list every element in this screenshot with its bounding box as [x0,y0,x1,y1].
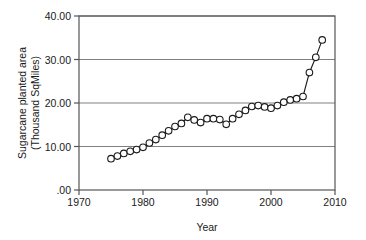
x-tick-label-1970: 1970 [67,196,91,208]
x-tick-label-1990: 1990 [195,196,219,208]
data-point-1992 [217,116,224,123]
data-point-1995 [236,111,243,118]
data-point-2006 [306,69,313,76]
data-point-1998 [255,102,262,109]
data-point-1999 [261,104,268,111]
x-axis-tick-labels: 19701980199020002010 [67,196,347,208]
data-point-1986 [178,120,185,127]
data-point-2007 [313,54,320,61]
data-point-2008 [319,37,326,44]
data-series-sugarcane [108,37,326,162]
y-axis-ticks [74,16,79,190]
data-point-1987 [185,114,192,121]
y-axis-tick-labels: .0010.0020.0030.0040.00 [45,10,71,196]
data-point-1989 [197,119,204,126]
data-point-1979 [133,146,140,153]
gridlines [79,16,335,147]
chart-container: 19701980199020002010 .0010.0020.0030.004… [0,0,366,240]
data-point-2000 [268,105,275,112]
y-tick-label-20: 20.00 [45,97,71,109]
x-tick-label-2000: 2000 [259,196,283,208]
x-tick-label-1980: 1980 [131,196,155,208]
line-chart: 19701980199020002010 .0010.0020.0030.004… [0,0,366,240]
data-point-2004 [293,95,300,102]
x-tick-label-2010: 2010 [323,196,347,208]
data-point-1994 [229,115,236,122]
data-point-1982 [153,136,160,143]
y-tick-label-0: .00 [56,184,71,196]
y-axis-title-line-1: Sugarcane planted area [16,47,28,159]
data-point-1983 [159,132,166,139]
data-point-2003 [287,97,294,104]
data-point-1997 [249,103,256,110]
data-point-1980 [140,144,147,151]
y-tick-label-10: 10.00 [45,141,71,153]
data-point-1981 [146,140,153,147]
data-point-1984 [165,128,172,135]
data-point-1996 [242,107,249,114]
x-axis-title: Year [196,221,218,233]
y-tick-label-30: 30.00 [45,54,71,66]
y-axis-title-line-2: (Thousand SqMiles) [29,56,41,150]
data-point-1988 [191,117,198,124]
data-point-1976 [114,153,121,160]
data-point-2002 [281,99,288,106]
data-point-1991 [210,115,217,122]
y-tick-label-40: 40.00 [45,10,71,22]
data-point-1985 [172,123,179,130]
data-point-2001 [274,102,281,109]
data-point-1977 [121,150,128,157]
data-point-1990 [204,115,211,122]
x-axis-ticks [79,190,335,195]
data-point-1975 [108,155,115,162]
data-point-1993 [223,121,230,128]
data-point-1978 [127,148,134,155]
data-point-2005 [300,93,307,100]
